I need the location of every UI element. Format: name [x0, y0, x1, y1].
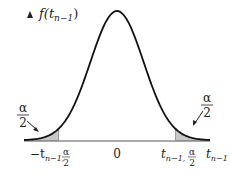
t-distribution-chart: f(tn−1) α 2 α 2 −tn−1, α 2 0 tn−1, α 2 t…	[0, 0, 230, 174]
svg-text:2: 2	[19, 116, 27, 130]
svg-text:−tn−1,: −tn−1,	[30, 147, 64, 163]
left-tail-annotation: α 2	[17, 101, 39, 132]
y-axis-arrow-icon	[27, 11, 33, 18]
tick-label-zero: 0	[113, 147, 121, 161]
svg-text:2: 2	[189, 158, 195, 168]
y-axis-label: f(tn−1)	[38, 6, 78, 23]
svg-text:α: α	[19, 101, 27, 115]
tick-label-neg-critical: −tn−1, α 2	[30, 147, 70, 168]
svg-text:2: 2	[63, 158, 69, 168]
svg-text:α: α	[189, 147, 195, 157]
density-curve	[24, 11, 210, 140]
right-pointer-arrow-icon	[195, 111, 203, 123]
svg-text:α: α	[63, 147, 69, 157]
right-tail-annotation: α 2	[193, 91, 213, 126]
tick-label-pos-critical: tn−1, α 2	[161, 147, 196, 168]
svg-text:α: α	[203, 91, 211, 105]
svg-text:tn−1,: tn−1,	[161, 147, 185, 163]
x-axis-label: tn−1	[206, 147, 228, 163]
svg-text:2: 2	[203, 106, 211, 120]
